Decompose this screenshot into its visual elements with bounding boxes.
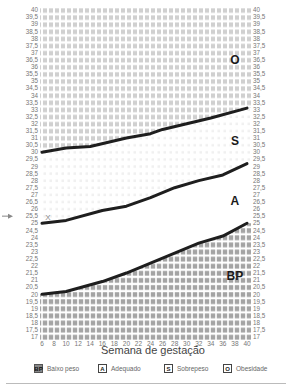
y-tick-label: 17 — [253, 333, 261, 340]
y-tick-label: 27 — [253, 191, 261, 198]
y-tick-label: 22,5 — [26, 255, 39, 262]
y-tick-label: 40 — [31, 6, 39, 13]
y-tick-label: 26,5 — [253, 198, 266, 205]
legend-label: Adequado — [111, 365, 141, 372]
legend-swatch-bp: BP — [34, 364, 43, 373]
y-tick-label: 23 — [253, 248, 261, 255]
y-tick-label: 34 — [31, 92, 39, 99]
y-tick-label: 29,5 — [26, 155, 39, 162]
y-tick-label: 31 — [31, 134, 39, 141]
y-tick-label: 27,5 — [253, 184, 266, 191]
divider — [6, 383, 286, 384]
y-axis-right: 4039,53938,53837,53736,53635,53534,53433… — [253, 6, 266, 340]
y-tick-label: 36 — [31, 63, 39, 70]
y-tick-label: 35 — [31, 77, 39, 84]
zone-label-s: S — [231, 134, 239, 148]
y-tick-label: 34,5 — [26, 84, 39, 91]
y-tick-label: 17,5 — [26, 326, 39, 333]
y-tick-label: 30 — [253, 148, 261, 155]
y-tick-label: 32 — [31, 120, 39, 127]
y-tick-label: 33 — [253, 106, 261, 113]
y-tick-label: 19,5 — [26, 298, 39, 305]
y-tick-label: 33,5 — [26, 99, 39, 106]
legend-label: Sobrepeso — [177, 365, 208, 372]
y-tick-label: 34 — [253, 92, 261, 99]
y-tick-label: 36,5 — [253, 56, 266, 63]
y-tick-label: 38 — [31, 35, 39, 42]
y-tick-label: 37 — [253, 49, 261, 56]
y-tick-label: 21,5 — [253, 269, 266, 276]
legend-swatch-a: A — [98, 364, 107, 373]
y-tick-label: 17,5 — [253, 326, 266, 333]
y-tick-label: 21,5 — [26, 269, 39, 276]
y-tick-label: 24,5 — [26, 227, 39, 234]
y-tick-label: 34,5 — [253, 84, 266, 91]
y-tick-label: 30,5 — [26, 141, 39, 148]
y-tick-label: 32,5 — [253, 113, 266, 120]
y-tick-label: 37,5 — [253, 42, 266, 49]
y-tick-label: 30,5 — [253, 141, 266, 148]
y-tick-label: 17 — [31, 333, 39, 340]
y-tick-label: 20 — [31, 291, 39, 298]
y-tick-label: 27 — [31, 191, 39, 198]
y-tick-label: 25,5 — [26, 212, 39, 219]
y-tick-label: 25 — [253, 219, 261, 226]
legend-item-sobrepeso: S Sobrepeso — [164, 364, 208, 373]
y-tick-label: 31,5 — [26, 127, 39, 134]
y-tick-label: 32 — [253, 120, 261, 127]
y-tick-label: 18,5 — [253, 312, 266, 319]
zone-label-o: O — [230, 53, 239, 67]
y-tick-label: 28 — [31, 177, 39, 184]
legend: BP Baixo peso A Adequado S Sobrepeso O O… — [0, 360, 286, 380]
y-tick-label: 19,5 — [253, 298, 266, 305]
y-tick-label: 38 — [253, 35, 261, 42]
y-tick-label: 21 — [31, 276, 39, 283]
y-tick-label: 22 — [253, 262, 261, 269]
y-tick-label: 26 — [31, 205, 39, 212]
y-tick-label: 24 — [253, 234, 261, 241]
legend-label: Obesidade — [236, 365, 267, 372]
y-tick-label: 31,5 — [253, 127, 266, 134]
bmi-gestation-chart: 4039,53938,53837,53736,53635,53534,53433… — [0, 0, 286, 360]
y-tick-label: 33 — [31, 106, 39, 113]
zone-label-bp: BP — [227, 269, 244, 283]
legend-swatch-o: O — [223, 364, 232, 373]
y-tick-label: 35,5 — [253, 70, 266, 77]
y-tick-label: 38,5 — [26, 28, 39, 35]
y-tick-label: 21 — [253, 276, 261, 283]
y-tick-label: 25,5 — [253, 212, 266, 219]
y-axis-left: 4039,53938,53837,53736,53635,53534,53433… — [26, 6, 39, 340]
y-tick-label: 36,5 — [26, 56, 39, 63]
y-tick-label: 31 — [253, 134, 261, 141]
legend-item-obesidade: O Obesidade — [223, 364, 267, 373]
y-tick-label: 20,5 — [26, 283, 39, 290]
y-tick-label: 22,5 — [253, 255, 266, 262]
y-tick-label: 19 — [253, 305, 261, 312]
y-tick-label: 29 — [253, 163, 261, 170]
legend-item-adequado: A Adequado — [98, 364, 141, 373]
y-tick-label: 18 — [31, 319, 39, 326]
y-tick-label: 35,5 — [26, 70, 39, 77]
y-tick-label: 24 — [31, 234, 39, 241]
legend-swatch-s: S — [164, 364, 173, 373]
y-tick-label: 35 — [253, 77, 261, 84]
y-tick-label: 38,5 — [253, 28, 266, 35]
y-tick-label: 30 — [31, 148, 39, 155]
y-tick-label: 32,5 — [26, 113, 39, 120]
y-tick-label: 20,5 — [253, 283, 266, 290]
y-tick-label: 36 — [253, 63, 261, 70]
y-tick-label: 19 — [31, 305, 39, 312]
y-tick-label: 29,5 — [253, 155, 266, 162]
y-tick-label: 23,5 — [253, 241, 266, 248]
y-tick-label: 22 — [31, 262, 39, 269]
y-tick-label: 28,5 — [26, 170, 39, 177]
y-tick-label: 37,5 — [26, 42, 39, 49]
legend-item-baixo-peso: BP Baixo peso — [34, 364, 79, 373]
x-axis-title: Semana de gestação — [0, 344, 286, 356]
y-tick-label: 23,5 — [26, 241, 39, 248]
y-tick-label: 18 — [253, 319, 261, 326]
y-tick-label: 25 — [31, 219, 39, 226]
zone-baixo-peso — [38, 223, 252, 342]
y-tick-label: 39,5 — [253, 13, 266, 20]
y-tick-label: 26 — [253, 205, 261, 212]
